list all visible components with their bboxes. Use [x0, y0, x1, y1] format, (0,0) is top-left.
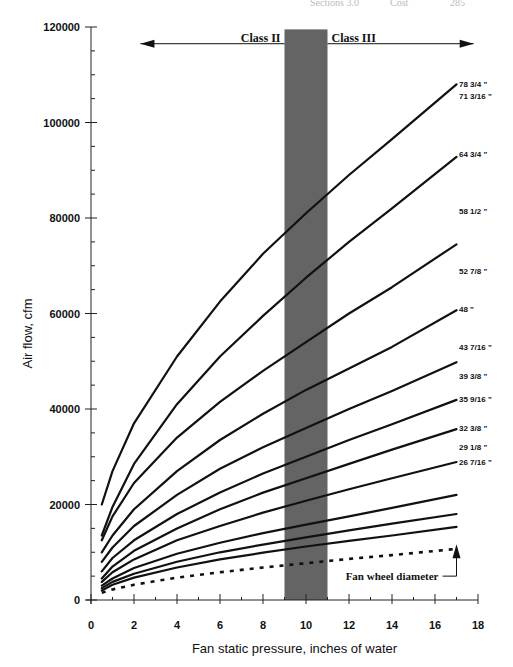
curve-label: 78 3/4 ": [459, 80, 487, 89]
x-tick-label: 4: [174, 619, 181, 631]
arrow-left-icon: [140, 40, 154, 48]
x-tick-label: 10: [300, 619, 312, 631]
x-axis-title: Fan static pressure, inches of water: [192, 641, 398, 656]
page-header: Sections 3.0 Cost 285: [310, 0, 465, 8]
y-tick-label: 20000: [49, 499, 80, 511]
fan-curve-chart: Sections 3.0 Cost 285 020000400006000080…: [0, 0, 513, 667]
class-ii-label: Class II: [241, 31, 281, 45]
x-tick-label: 8: [260, 619, 266, 631]
curve-labels: 78 3/4 "71 3/16 "64 3/4 "58 1/2 "52 7/8 …: [459, 80, 492, 466]
class-iii-label: Class III: [332, 31, 377, 45]
curve-label: 39 3/8 ": [459, 372, 487, 381]
x-tick-label: 14: [386, 619, 399, 631]
curve-5: [102, 400, 457, 572]
class-boundary-band: [285, 29, 328, 600]
arrow-up-icon: [453, 544, 461, 558]
y-tick-label: 40000: [49, 403, 80, 415]
x-tick-label: 0: [88, 619, 94, 631]
header-fragment-mid: Cost: [390, 0, 409, 8]
x-tick-label: 12: [343, 619, 355, 631]
curve-6: [102, 429, 457, 578]
arrow-right-icon: [460, 40, 474, 48]
curve-label: 48 ": [459, 305, 474, 314]
curve-0: [102, 84, 457, 504]
x-tick-label: 16: [429, 619, 441, 631]
y-tick-label: 0: [74, 594, 80, 606]
curve-label: 35 9/16 ": [459, 395, 492, 404]
y-tick-label: 60000: [49, 308, 80, 320]
curve-label: 26 7/16 ": [459, 458, 492, 467]
fan-curves: [102, 84, 457, 593]
x-tick-label: 6: [217, 619, 223, 631]
shaded-band-rect: [285, 29, 328, 600]
fan-wheel-diameter-note: Fan wheel diameter: [346, 570, 439, 582]
curve-3: [102, 310, 457, 552]
curve-label: 64 3/4 ": [459, 150, 487, 159]
header-fragment-right: 285: [450, 0, 465, 8]
x-tick-label: 2: [131, 619, 137, 631]
curve-label: 29 1/8 ": [459, 443, 487, 452]
curve-label: 43 7/16 ": [459, 343, 492, 352]
curve-label: 32 3/8 ": [459, 424, 487, 433]
y-tick-label: 100000: [43, 117, 80, 129]
curve-label: 58 1/2 ": [459, 207, 487, 216]
curve-1: [102, 157, 457, 536]
y-tick-label: 120000: [43, 21, 80, 33]
curve-label: 52 7/8 ": [459, 267, 487, 276]
y-axis-title: Air flow, cfm: [20, 298, 35, 368]
curve-label: 71 3/16 ": [459, 92, 492, 101]
x-tick-label: 18: [472, 619, 484, 631]
header-fragment-left: Sections 3.0: [310, 0, 359, 8]
y-tick-label: 80000: [49, 212, 80, 224]
